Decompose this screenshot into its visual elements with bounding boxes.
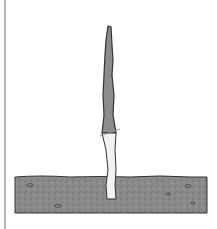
stake-illustration [0,0,217,229]
stake [100,26,120,199]
